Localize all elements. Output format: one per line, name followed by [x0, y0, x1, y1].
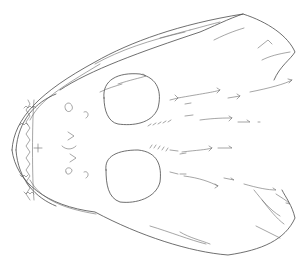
- outline-lower: [12, 150, 295, 255]
- arrow-stroke: [262, 52, 290, 60]
- arrow-stroke: [184, 176, 218, 188]
- arrow-stroke: [258, 40, 272, 48]
- orbit-teeth-lower: [150, 145, 168, 151]
- arrow-stroke: [244, 184, 276, 190]
- arrow-stroke: [170, 172, 178, 174]
- arrow-stroke: [190, 22, 220, 30]
- arrow-strokes: [100, 22, 292, 204]
- arrow-stroke: [228, 94, 240, 99]
- arrow-stroke: [214, 28, 244, 40]
- arrow-stroke: [218, 146, 232, 148]
- orbit-upper: [104, 74, 160, 125]
- arrow-stroke: [182, 146, 212, 152]
- arrow-stroke: [180, 153, 186, 154]
- arrow-stroke: [170, 150, 178, 151]
- feather-stroke: [180, 232, 210, 244]
- arrow-stroke: [200, 116, 232, 121]
- skull-illustration: [0, 0, 307, 268]
- arrow-stroke: [185, 103, 191, 104]
- orbit-teeth-upper: [148, 120, 171, 126]
- arrow-stroke: [178, 88, 220, 98]
- arrow-stroke: [100, 84, 122, 92]
- upper-ridge: [60, 14, 243, 90]
- skull-drawing-svg: [0, 0, 307, 268]
- inner-upper: [30, 64, 100, 120]
- arrow-stroke: [250, 79, 292, 92]
- arrow-stroke: [118, 74, 146, 84]
- upper-ridge-secondary: [95, 32, 185, 64]
- feather-stroke: [256, 226, 280, 238]
- face-marks: [62, 103, 88, 178]
- arrow-stroke: [238, 120, 250, 122]
- arrow-stroke: [185, 115, 193, 116]
- jaw-outer-lower: [16, 150, 56, 206]
- feather-stroke: [150, 226, 206, 244]
- arrow-stroke: [224, 178, 234, 180]
- orbit-lower: [106, 150, 161, 202]
- outline-upper: [12, 14, 295, 150]
- snout-mark: [34, 144, 42, 152]
- feather-strokes: [150, 190, 284, 244]
- arrow-stroke: [276, 194, 290, 204]
- arrow-stroke: [170, 95, 178, 101]
